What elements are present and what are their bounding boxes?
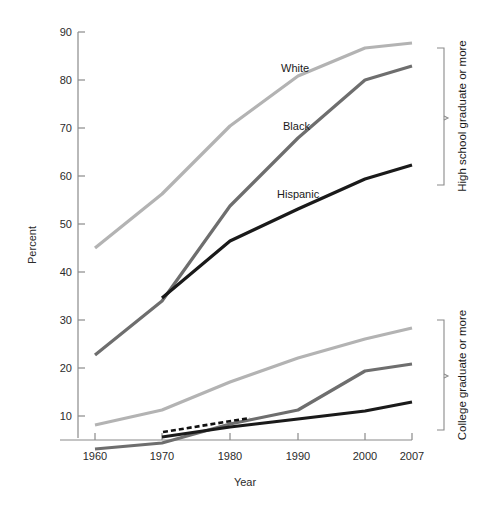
- line-college-hispanic: [162, 402, 412, 437]
- y-tick-20: 20: [60, 362, 85, 374]
- y-tick-10: 10: [60, 410, 85, 422]
- x-tick-label: 1990: [286, 450, 310, 462]
- line-hs-hispanic: [162, 165, 412, 298]
- x-tick-label: 2007: [400, 450, 424, 462]
- y-axis-title: Percent: [26, 226, 38, 264]
- y-tick-70: 70: [60, 122, 85, 134]
- x-axis-title: Year: [234, 476, 257, 488]
- series-label-black: Black: [283, 120, 310, 132]
- x-tick-1990: 1990: [286, 433, 310, 462]
- bracket-nub: [444, 374, 448, 378]
- y-tick-label: 60: [60, 170, 72, 182]
- group-label-high-school: High school graduate or more: [456, 40, 468, 192]
- bracket-shape: [437, 48, 444, 185]
- y-tick-label: 70: [60, 122, 72, 134]
- bracket-shape: [437, 320, 444, 430]
- x-tick-label: 2000: [353, 450, 377, 462]
- group-bracket-college: College graduate or more: [437, 310, 468, 440]
- x-tick-1980: 1980: [218, 433, 242, 462]
- y-tick-50: 50: [60, 218, 85, 230]
- y-axis: 90 80 70 60 50 40: [26, 26, 85, 438]
- x-tick-2000: 2000: [353, 433, 377, 462]
- y-tick-60: 60: [60, 170, 85, 182]
- chart-figure: 90 80 70 60 50 40: [0, 0, 490, 507]
- series-label-white: White: [281, 62, 309, 74]
- series-label-hispanic: Hispanic: [277, 188, 320, 200]
- line-chart-canvas: 90 80 70 60 50 40: [0, 0, 490, 507]
- y-tick-90: 90: [60, 26, 85, 38]
- bracket-nub: [444, 116, 448, 120]
- x-axis: 1960 1970 1980 1990 2000 2007 Y: [60, 433, 424, 488]
- y-tick-80: 80: [60, 74, 85, 86]
- y-tick-label: 80: [60, 74, 72, 86]
- y-tick-label: 20: [60, 362, 72, 374]
- y-tick-40: 40: [60, 266, 85, 278]
- x-tick-label: 1980: [218, 450, 242, 462]
- y-tick-label: 40: [60, 266, 72, 278]
- y-tick-label: 10: [60, 410, 72, 422]
- y-tick-label: 30: [60, 314, 72, 326]
- x-tick-2007: 2007: [400, 433, 424, 462]
- group-bracket-high-school: High school graduate or more: [437, 40, 468, 192]
- x-tick-label: 1960: [83, 450, 107, 462]
- plot-area: White Black Hispanic: [95, 43, 412, 449]
- y-tick-30: 30: [60, 314, 85, 326]
- line-hs-white: [95, 43, 412, 248]
- y-tick-label: 50: [60, 218, 72, 230]
- group-label-college: College graduate or more: [456, 310, 468, 440]
- x-tick-label: 1970: [150, 450, 174, 462]
- y-tick-label: 90: [60, 26, 72, 38]
